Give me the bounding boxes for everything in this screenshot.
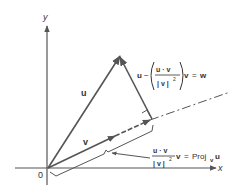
diagram-svg: y x 0 u v u − u · v | v | 2 v = w u · v … [0, 0, 232, 195]
projection-diagram: y x 0 u v u − u · v | v | 2 v = w u · v … [0, 0, 232, 195]
svg-text:u: u [215, 152, 220, 161]
svg-text:=: = [192, 71, 197, 80]
origin-label: 0 [38, 170, 43, 180]
svg-text:| v |: | v | [157, 80, 169, 88]
x-axis-label: x [217, 163, 223, 173]
v-label: v [83, 137, 88, 147]
svg-text:v: v [210, 157, 214, 163]
svg-text:−: − [144, 71, 149, 80]
svg-text:w: w [199, 71, 207, 80]
svg-text:v: v [184, 71, 189, 80]
y-axis-label: y [42, 12, 48, 22]
u-label: u [81, 88, 87, 98]
svg-text:2: 2 [173, 76, 176, 82]
svg-text:u · v: u · v [153, 147, 167, 154]
svg-text:u · v: u · v [156, 66, 170, 73]
v-line-extension [150, 92, 230, 120]
svg-text:2: 2 [169, 156, 172, 162]
w-formula: u − u · v | v | 2 v = w [137, 62, 207, 90]
svg-text:u: u [137, 71, 142, 80]
svg-text:v: v [176, 152, 181, 161]
right-angle-marker [142, 110, 150, 116]
svg-text:Proj: Proj [192, 152, 206, 161]
proj-pointer-arrow [112, 153, 150, 158]
proj-formula: u · v | v | 2 v = Proj v u [152, 147, 220, 168]
svg-text:| v |: | v | [153, 160, 165, 168]
svg-text:=: = [184, 152, 189, 161]
proj-segment [115, 120, 150, 136]
